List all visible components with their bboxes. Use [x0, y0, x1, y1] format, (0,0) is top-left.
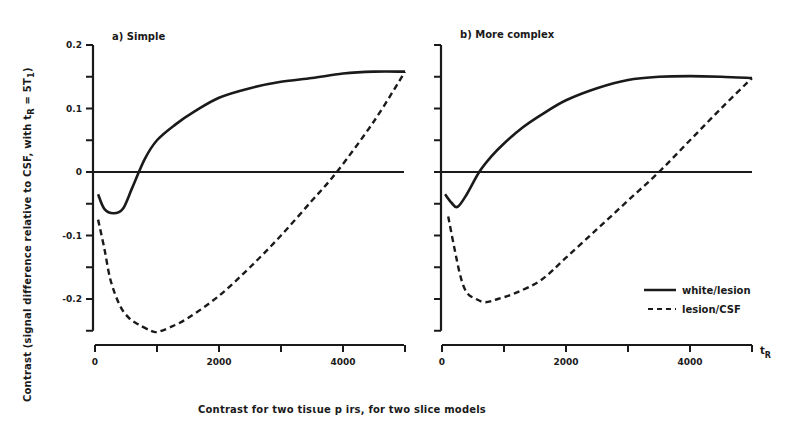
legend: white/lesion lesion/CSF: [644, 285, 751, 315]
panel-b: b) More complex 020004000 tR: [434, 29, 771, 367]
figure-caption: Contrast for two tisɩue p irs, for two s…: [198, 404, 486, 415]
series-lesion-csf: [448, 78, 752, 302]
y-tick-label: 0.1: [66, 104, 82, 114]
y-tick-label: 0.2: [66, 40, 82, 50]
series-white-lesion: [98, 72, 405, 214]
x-axis-unit: tR: [760, 345, 771, 360]
x-tick-label: 4000: [330, 357, 355, 367]
x-tick-label: 0: [439, 357, 445, 367]
panel-a-axes: 0.20.10-0.1-0.2020004000: [62, 40, 405, 367]
panel-a-curves: [93, 72, 405, 333]
legend-label-lesion-csf: lesion/CSF: [682, 304, 741, 315]
series-lesion-csf: [98, 72, 405, 333]
y-axis-label: Contrast (signal difference relative to …: [22, 67, 36, 402]
panel-a-title: a) Simple: [112, 31, 165, 42]
panel-b-axes: 020004000: [434, 45, 752, 367]
series-white-lesion: [445, 76, 752, 207]
legend-label-white-lesion: white/lesion: [682, 285, 751, 296]
x-tick-label: 2000: [553, 357, 578, 367]
panel-b-title: b) More complex: [460, 29, 555, 40]
panel-a: a) Simple 0.20.10-0.1-0.2020004000: [62, 31, 405, 367]
x-tick-label: 0: [92, 357, 98, 367]
y-tick-label: -0.1: [62, 231, 82, 241]
figure-canvas: a) Simple 0.20.10-0.1-0.2020004000 b) Mo…: [0, 0, 791, 439]
x-tick-label: 4000: [677, 357, 702, 367]
x-tick-label: 2000: [206, 357, 231, 367]
y-tick-label: -0.2: [62, 294, 82, 304]
y-tick-label: 0: [76, 167, 82, 177]
panel-b-curves: [441, 76, 752, 302]
